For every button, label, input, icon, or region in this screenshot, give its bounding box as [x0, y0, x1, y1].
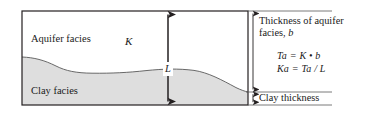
total-length-symbol: L: [163, 62, 173, 76]
clay-thickness-callout: Clay thickness: [259, 92, 319, 104]
aquifer-thickness-callout: Thickness of aquifer facies, b: [259, 15, 365, 38]
equation-transmissivity: Ta = K • b: [277, 50, 326, 61]
clay-facies-label: Clay facies: [31, 85, 78, 97]
aquifer-thickness-line1: Thickness of aquifer: [259, 15, 344, 26]
aquifer-facies-label: Aquifer facies: [31, 33, 91, 45]
clay-facies-region: [22, 57, 248, 105]
figure-canvas: Aquifer facies Clay facies K L Thickness…: [0, 0, 368, 118]
aquifer-thickness-line2-prefix: facies,: [259, 27, 288, 38]
hydraulic-conductivity-symbol: K: [125, 35, 132, 47]
equations-block: Ta = K • b Ka = Ta / L: [277, 50, 326, 74]
equation-conductivity: Ka = Ta / L: [277, 63, 326, 74]
aquifer-thickness-symbol: b: [288, 27, 293, 38]
